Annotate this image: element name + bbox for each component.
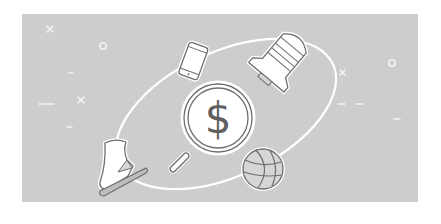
smartphone-icon — [178, 42, 208, 81]
circle-icon — [389, 60, 395, 66]
dollar-sign: $ — [205, 94, 232, 143]
cross-icon — [340, 70, 345, 75]
circle-icon — [100, 43, 106, 49]
ice-skate-icon — [100, 140, 148, 196]
basketball-icon — [241, 147, 285, 191]
space-shuttle-icon — [246, 23, 317, 95]
cross-icon — [78, 97, 84, 103]
magnifying-glass-dollar-icon: $ — [173, 82, 254, 169]
cross-icon — [47, 26, 53, 32]
illustration: $ — [0, 0, 441, 224]
decorations-left — [39, 26, 106, 127]
decorations-right — [338, 60, 400, 119]
